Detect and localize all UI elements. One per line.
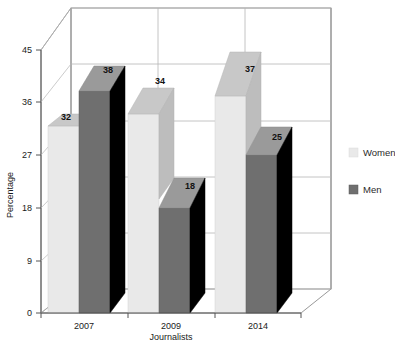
bar-2007-men[interactable] (79, 66, 125, 313)
bar-2009-men-front (159, 208, 190, 313)
bar-label-2009-men: 18 (185, 181, 195, 191)
bar-2014-men-side (277, 127, 292, 313)
bar-chart-3d: 0 9 18 27 36 45 Percentage 32 38 34 18 (0, 0, 395, 341)
bar-label-2014-women: 37 (245, 64, 255, 74)
legend-label-women[interactable]: Women (363, 147, 395, 158)
bar-2007-women-front (48, 126, 79, 313)
bar-2014-men[interactable] (246, 127, 292, 313)
y-tick-label-36: 36 (22, 97, 32, 107)
bar-label-2007-men: 38 (103, 65, 113, 75)
bar-label-2009-women: 34 (155, 76, 165, 86)
bar-2014-men-front (246, 155, 277, 313)
legend-swatch-women (349, 148, 358, 157)
legend-swatch-men (349, 185, 358, 194)
legend-label-men[interactable]: Men (363, 184, 381, 195)
y-tick-label-45: 45 (22, 45, 32, 55)
x-tick-label-2014: 2014 (248, 321, 268, 331)
y-tick-label-27: 27 (22, 150, 32, 160)
x-tick-label-2009: 2009 (161, 321, 181, 331)
bar-2007-men-front (79, 91, 110, 313)
y-tick-label-18: 18 (22, 203, 32, 213)
y-tick-label-9: 9 (27, 256, 32, 266)
y-tick-label-0: 0 (27, 308, 32, 318)
y-axis-title: Percentage (5, 172, 15, 218)
bar-2009-women-front (128, 114, 159, 313)
bar-label-2014-men: 25 (272, 132, 282, 142)
bar-2007-men-side (110, 66, 125, 313)
x-axis-title: Journalists (149, 332, 193, 341)
bar-2014-women-front (215, 96, 246, 313)
bar-2009-men[interactable] (159, 178, 205, 313)
bar-label-2007-women: 32 (61, 112, 71, 122)
x-tick-label-2007: 2007 (74, 321, 94, 331)
chart-container: 0 9 18 27 36 45 Percentage 32 38 34 18 (0, 0, 395, 341)
